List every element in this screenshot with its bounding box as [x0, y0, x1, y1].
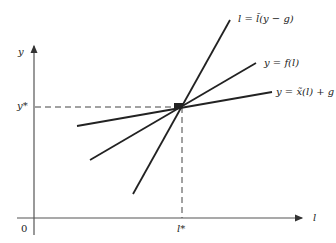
origin-label: 0	[21, 224, 27, 234]
y-star-label: y*	[17, 101, 28, 111]
x-axis-label: l	[313, 213, 316, 223]
diagram-canvas	[0, 0, 336, 243]
label-y-equals-f: y = f(l)	[264, 58, 299, 68]
label-l-equals-ltilde: l = l̃(y − g)	[238, 14, 294, 24]
l-star-label: l*	[177, 224, 185, 234]
y-axis-label: y	[18, 47, 24, 57]
intersection-point	[174, 103, 183, 108]
line-y-equals-f	[90, 63, 256, 160]
label-y-equals-xtilde-plus-g: y = x̃(l) + g	[276, 87, 334, 97]
